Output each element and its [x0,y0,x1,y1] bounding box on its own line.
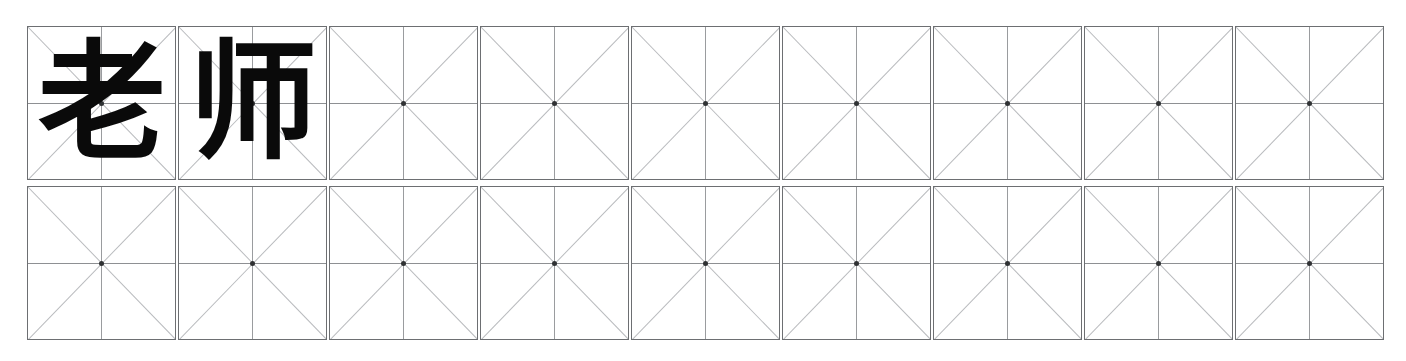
center-dot-icon [552,261,557,266]
practice-cell[interactable] [631,26,780,180]
center-dot-icon [1156,101,1161,106]
handwriting-practice-worksheet: 老 师 [0,0,1406,361]
practice-cell[interactable] [782,26,931,180]
center-dot-icon [854,261,859,266]
practice-cell[interactable] [782,186,931,340]
character-glyph: 老 [28,27,175,179]
practice-cell[interactable] [480,26,629,180]
practice-cell[interactable] [1084,26,1233,180]
center-dot-icon [1005,261,1010,266]
center-dot-icon [99,261,104,266]
center-dot-icon [552,101,557,106]
center-dot-icon [703,101,708,106]
center-dot-icon [401,101,406,106]
center-dot-icon [401,261,406,266]
practice-cell[interactable] [1235,26,1384,180]
practice-cell[interactable]: 老 [27,26,176,180]
practice-cell[interactable] [1235,186,1384,340]
center-dot-icon [1005,101,1010,106]
practice-cell[interactable] [1084,186,1233,340]
practice-cell[interactable] [631,186,780,340]
practice-cell[interactable]: 师 [178,26,327,180]
practice-cell[interactable] [933,26,1082,180]
practice-cell[interactable] [480,186,629,340]
practice-cell[interactable] [178,186,327,340]
center-dot-icon [250,261,255,266]
character-glyph: 师 [179,27,326,179]
practice-cell[interactable] [329,26,478,180]
center-dot-icon [1156,261,1161,266]
center-dot-icon [703,261,708,266]
practice-cell[interactable] [933,186,1082,340]
practice-grid-row: 老 师 [27,26,1384,180]
center-dot-icon [1307,101,1312,106]
practice-grid-row [27,186,1384,340]
center-dot-icon [854,101,859,106]
practice-cell[interactable] [329,186,478,340]
center-dot-icon [1307,261,1312,266]
practice-cell[interactable] [27,186,176,340]
